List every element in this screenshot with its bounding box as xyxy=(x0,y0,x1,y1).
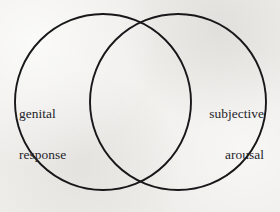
genital-response-label: genital response xyxy=(19,80,66,189)
subjective-arousal-label: subjective arousal xyxy=(209,80,264,189)
subjective-arousal-label-line-2: arousal xyxy=(209,148,264,162)
subjective-arousal-label-line-1: subjective xyxy=(209,107,264,121)
venn-diagram-figure: genital response subjective arousal xyxy=(0,0,280,212)
genital-response-label-line-2: response xyxy=(19,148,66,162)
genital-response-label-line-1: genital xyxy=(19,107,66,121)
